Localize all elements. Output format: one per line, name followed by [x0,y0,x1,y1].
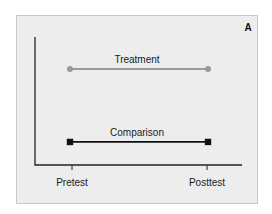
chart: PretestPosttest TreatmentComparison A [0,0,272,214]
x-tick-label-pretest: Pretest [56,177,88,188]
data-point-comparison-posttest [205,139,211,145]
data-point-treatment-pretest [67,66,73,72]
data-point-treatment-posttest [205,66,211,72]
data-point-comparison-pretest [67,139,73,145]
x-tick-label-posttest: Posttest [189,177,225,188]
series-label-treatment: Treatment [114,54,159,65]
series-label-comparison: Comparison [110,127,164,138]
panel-label: A [244,22,251,33]
